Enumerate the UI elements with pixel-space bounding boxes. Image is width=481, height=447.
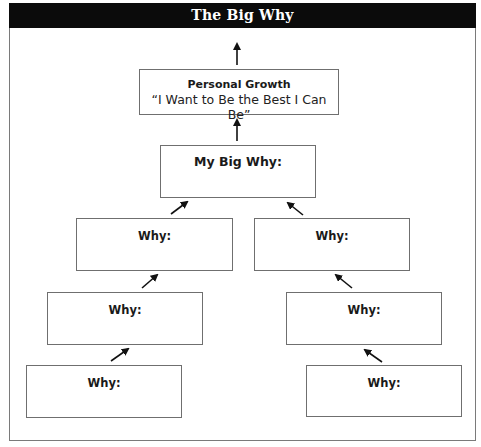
why-box-right-level3[interactable]: Why: — [286, 292, 442, 345]
why-label: Why: — [287, 303, 441, 317]
why-box-left-level2[interactable]: Why: — [76, 218, 233, 271]
personal-growth-title: Personal Growth — [140, 78, 338, 91]
my-big-why-label: My Big Why: — [161, 154, 315, 169]
personal-growth-subtitle: “I Want to Be the Best I Can Be” — [140, 92, 338, 122]
why-label: Why: — [48, 303, 202, 317]
why-label: Why: — [307, 376, 461, 390]
diagram-title: The Big Why — [9, 3, 476, 28]
why-box-right-level2[interactable]: Why: — [254, 218, 410, 271]
why-label: Why: — [27, 376, 181, 390]
why-label: Why: — [77, 229, 232, 243]
personal-growth-box: Personal Growth “I Want to Be the Best I… — [139, 69, 339, 115]
my-big-why-box[interactable]: My Big Why: — [160, 145, 316, 198]
why-box-left-level4[interactable]: Why: — [26, 365, 182, 418]
why-box-right-level4[interactable]: Why: — [306, 365, 462, 417]
why-label: Why: — [255, 229, 409, 243]
why-box-left-level3[interactable]: Why: — [47, 292, 203, 345]
